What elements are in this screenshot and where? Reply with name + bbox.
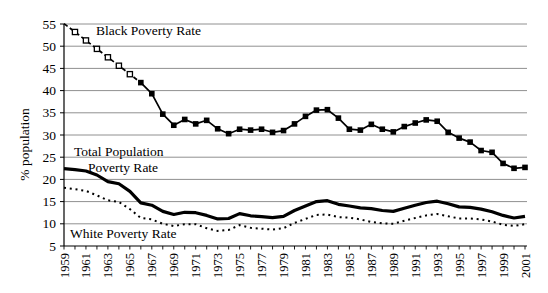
filled-square-marker — [511, 166, 517, 172]
x-tick-label: 1991 — [409, 253, 423, 278]
y-tick-label: 10 — [43, 216, 57, 231]
filled-square-marker — [434, 118, 440, 124]
filled-square-marker — [171, 122, 177, 128]
filled-square-marker — [478, 148, 484, 154]
filled-square-marker — [270, 130, 276, 136]
black-series-label: Black Poverty Rate — [96, 23, 201, 38]
filled-square-marker — [445, 130, 451, 136]
x-tick-label: 1977 — [255, 253, 269, 278]
filled-square-marker — [325, 107, 331, 113]
x-tick-label: 1961 — [79, 253, 93, 278]
x-tick-label: 1987 — [365, 253, 379, 278]
filled-square-marker — [237, 126, 243, 132]
white-series-label: White Poverty Rate — [70, 226, 176, 241]
y-tick-label: 30 — [43, 128, 57, 143]
filled-square-marker — [380, 126, 386, 132]
filled-square-marker — [467, 139, 473, 145]
open-square-marker — [94, 46, 99, 51]
filled-square-marker — [401, 124, 407, 130]
y-tick-label: 15 — [43, 194, 57, 209]
filled-square-marker — [336, 115, 342, 121]
total-series-label-line2: Poverty Rate — [88, 160, 158, 175]
filled-square-marker — [138, 80, 144, 86]
filled-square-marker — [347, 126, 353, 132]
filled-square-marker — [215, 126, 221, 132]
filled-square-marker — [500, 161, 506, 167]
y-tick-label: 40 — [43, 83, 57, 98]
x-tick-label: 1999 — [497, 253, 511, 278]
open-square-marker — [116, 63, 121, 68]
x-tick-label: 1967 — [145, 253, 159, 278]
x-tick-label: 1979 — [277, 253, 291, 278]
open-square-marker — [72, 29, 77, 34]
filled-square-marker — [456, 135, 462, 141]
x-tick-label: 1975 — [233, 253, 247, 278]
y-axis-title: % population — [17, 86, 34, 204]
filled-square-marker — [390, 129, 396, 135]
filled-square-marker — [248, 127, 254, 133]
open-square-marker — [83, 38, 88, 43]
total-series-label-line1: Total Population — [74, 144, 163, 159]
x-tick-label: 1963 — [101, 253, 115, 278]
filled-square-marker — [522, 165, 528, 171]
filled-square-marker — [160, 111, 166, 117]
x-tick-label: 1993 — [431, 253, 445, 278]
x-tick-label: 1959 — [58, 253, 72, 278]
x-tick-label: 1989 — [387, 253, 401, 278]
x-tick-label: 1997 — [475, 253, 489, 278]
x-tick-label: 1983 — [321, 253, 335, 278]
filled-square-marker — [412, 120, 418, 126]
filled-square-marker — [226, 131, 232, 137]
filled-square-marker — [423, 117, 429, 123]
filled-square-marker — [259, 126, 265, 132]
filled-square-marker — [292, 121, 298, 127]
x-tick-label: 1985 — [343, 253, 357, 278]
y-tick-label: 45 — [43, 61, 57, 76]
y-tick-label: 50 — [43, 39, 57, 54]
x-tick-label: 1965 — [123, 253, 137, 278]
filled-square-marker — [489, 150, 495, 156]
x-tick-label: 2001 — [519, 253, 533, 278]
total-poverty-line — [64, 169, 525, 219]
filled-square-marker — [303, 114, 309, 120]
filled-square-marker — [314, 107, 320, 113]
y-tick-label: 20 — [43, 172, 57, 187]
filled-square-marker — [281, 128, 287, 134]
x-tick-label: 1971 — [189, 253, 203, 278]
open-square-marker — [127, 72, 132, 77]
x-tick-label: 1995 — [453, 253, 467, 278]
filled-square-marker — [149, 91, 155, 97]
y-tick-label: 35 — [43, 105, 57, 120]
x-tick-label: 1969 — [167, 253, 181, 278]
filled-square-marker — [358, 127, 364, 133]
x-tick-label: 1973 — [211, 253, 225, 278]
filled-square-marker — [204, 118, 210, 124]
y-tick-label: 25 — [43, 150, 57, 165]
poverty-rates-figure: 5101520253035404550551959196119631965196… — [0, 0, 548, 293]
y-tick-label: 55 — [43, 17, 57, 32]
y-tick-label: 5 — [49, 239, 56, 254]
x-tick-label: 1981 — [299, 253, 313, 278]
filled-square-marker — [182, 117, 188, 123]
filled-square-marker — [369, 122, 375, 128]
filled-square-marker — [193, 121, 199, 127]
open-square-marker — [105, 55, 110, 60]
